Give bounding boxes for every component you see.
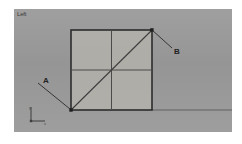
scene-canvas[interactable] xyxy=(14,9,232,132)
annotation-label-b: B xyxy=(174,48,180,56)
annotation-label-a: A xyxy=(43,77,49,85)
screenshot-root: Left A B y x xyxy=(0,0,242,144)
viewport-panel[interactable]: Left A B y x xyxy=(14,9,232,132)
axis-tripod-origin-marker xyxy=(30,120,32,122)
leader-line-b xyxy=(152,30,172,48)
axis-label-y: y xyxy=(29,106,31,110)
leader-line-a xyxy=(38,83,70,109)
axis-label-x: x xyxy=(44,122,46,126)
